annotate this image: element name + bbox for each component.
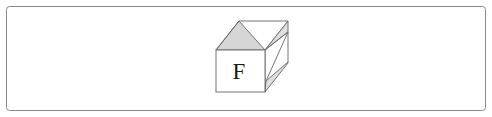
cube-figure-svg: F [0,0,492,117]
figure-container: F [0,0,492,117]
cube-front-face-label: F [233,59,246,84]
